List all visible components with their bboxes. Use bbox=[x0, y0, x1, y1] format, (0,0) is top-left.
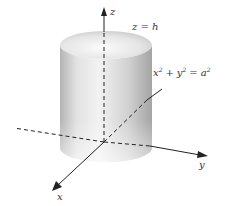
eq-y-exp: 2 bbox=[182, 66, 187, 73]
y-axis-arrow-icon bbox=[197, 151, 208, 158]
y-axis bbox=[150, 146, 200, 155]
eq-a-exp: 2 bbox=[206, 66, 211, 73]
y-axis-label: y bbox=[198, 159, 205, 170]
x-axis-label: x bbox=[57, 191, 63, 202]
eq-equals: = bbox=[189, 67, 197, 78]
eq-plus: + bbox=[165, 67, 173, 78]
cylinder-top-face bbox=[60, 31, 152, 59]
cylinder-bottom-highlight bbox=[60, 120, 152, 162]
surface-equation: x2+y2=a2 bbox=[153, 66, 211, 78]
z-axis-arrow-icon bbox=[101, 7, 107, 16]
cylinder-diagram: z y x z = h x2+y2=a2 bbox=[0, 0, 228, 206]
z-axis-label: z bbox=[109, 6, 116, 17]
svg-text:x2+y2=a2: x2+y2=a2 bbox=[153, 66, 211, 78]
top-plane-equation: z = h bbox=[131, 21, 158, 32]
eq-x-exp: 2 bbox=[158, 66, 163, 73]
